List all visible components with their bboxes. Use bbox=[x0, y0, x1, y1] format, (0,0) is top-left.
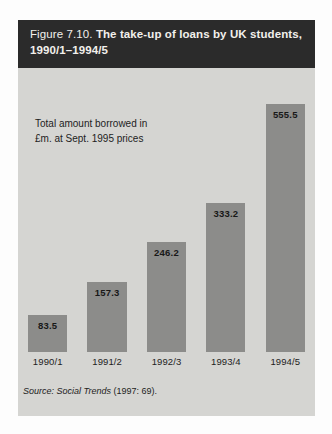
x-axis-label-1994/5: 1994/5 bbox=[256, 356, 315, 367]
bar-1994/5: 555.5 bbox=[266, 104, 305, 352]
x-axis-label-1990/1: 1990/1 bbox=[18, 356, 77, 367]
x-axis-label-1992/3: 1992/3 bbox=[137, 356, 196, 367]
bar-slot-1993/4: 333.2 bbox=[196, 84, 255, 352]
bar-1993/4: 333.2 bbox=[206, 203, 245, 352]
bar-1992/3: 246.2 bbox=[147, 242, 186, 352]
bar-1991/2: 157.3 bbox=[87, 282, 126, 352]
bar-value-label-1990/1: 83.5 bbox=[28, 320, 67, 331]
source-note: Source: Social Trends (1997: 69). bbox=[23, 386, 157, 396]
figure-title-band: Figure 7.10. The take-up of loans by UK … bbox=[18, 20, 315, 68]
bar-slot-1994/5: 555.5 bbox=[256, 84, 315, 352]
bar-slot-1991/2: 157.3 bbox=[77, 84, 136, 352]
x-axis-label-1993/4: 1993/4 bbox=[196, 356, 255, 367]
bar-value-label-1994/5: 555.5 bbox=[266, 109, 305, 120]
bar-value-label-1992/3: 246.2 bbox=[147, 247, 186, 258]
chart-panel: Total amount borrowed in £m. at Sept. 19… bbox=[18, 68, 315, 416]
bar-1990/1: 83.5 bbox=[28, 315, 67, 352]
figure-title-line-1: Figure 7.10. The take-up of loans by UK … bbox=[30, 27, 303, 43]
x-axis-label-1991/2: 1991/2 bbox=[77, 356, 136, 367]
source-citation: (1997: 69). bbox=[113, 386, 157, 396]
plot-area: 83.5 157.3 246.2 333.2 555.5 bbox=[18, 84, 315, 352]
x-axis: 1990/11991/21992/31993/41994/5 bbox=[18, 356, 315, 372]
figure-container: Figure 7.10. The take-up of loans by UK … bbox=[0, 0, 332, 434]
bar-value-label-1991/2: 157.3 bbox=[87, 287, 126, 298]
figure-title: The take-up of loans by UK students, bbox=[96, 28, 302, 40]
bar-slot-1990/1: 83.5 bbox=[18, 84, 77, 352]
bar-slot-1992/3: 246.2 bbox=[137, 84, 196, 352]
figure-title-line-2: 1990/1–1994/5 bbox=[30, 43, 303, 59]
source-publication: Social Trends bbox=[57, 386, 111, 396]
figure-number: Figure 7.10. bbox=[30, 28, 93, 40]
bar-value-label-1993/4: 333.2 bbox=[206, 208, 245, 219]
source-prefix: Source: bbox=[23, 386, 54, 396]
